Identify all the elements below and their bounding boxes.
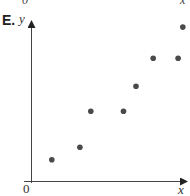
data-point (180, 24, 186, 30)
data-point (150, 56, 156, 62)
data-point (77, 144, 83, 150)
data-point (121, 109, 127, 115)
data-point (49, 157, 55, 163)
data-point (133, 84, 139, 90)
scatter-plot (0, 0, 190, 196)
data-points (49, 24, 186, 162)
data-point (88, 109, 94, 115)
data-point (175, 56, 181, 62)
